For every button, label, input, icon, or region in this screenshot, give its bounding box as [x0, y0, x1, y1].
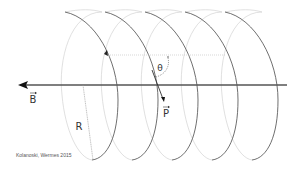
svg-text:P: P	[163, 108, 169, 119]
radius-line	[83, 85, 93, 160]
momentum-arrowhead-icon	[161, 97, 165, 102]
momentum-vector	[152, 70, 165, 102]
label-p: P	[163, 106, 170, 119]
label-theta: θ	[157, 63, 163, 73]
label-b: B	[30, 92, 37, 105]
helix-front-arcs	[65, 12, 278, 160]
helix-diagram: B P R θ Kolanoski, Wermes 2015	[0, 0, 299, 170]
svg-text:B: B	[30, 94, 37, 105]
credit-text: Kolanoski, Wermes 2015	[16, 152, 72, 158]
label-r: R	[76, 121, 83, 132]
b-field-axis	[18, 81, 287, 89]
